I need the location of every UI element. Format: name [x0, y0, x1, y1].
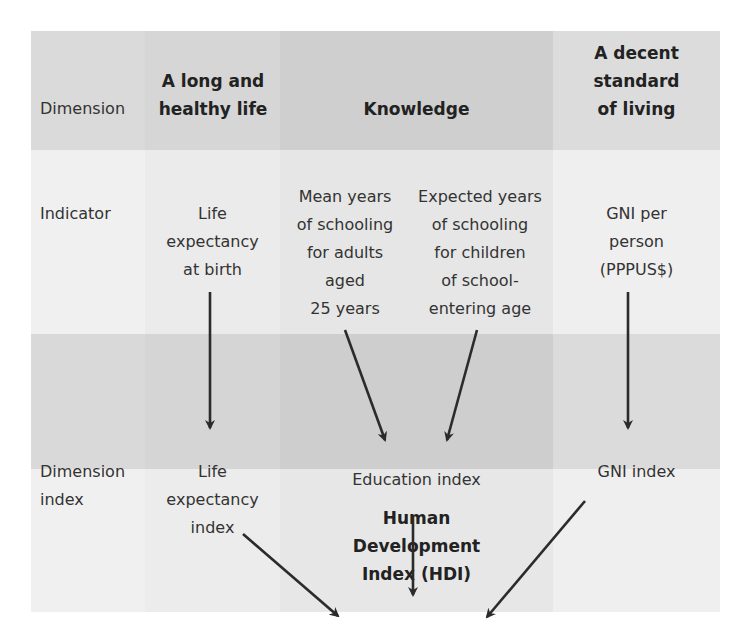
arrow-gni-index-to-hdi	[487, 501, 585, 617]
arrow-mean-schooling-to-education	[345, 330, 385, 440]
arrow-expected-schooling-to-education	[447, 330, 477, 440]
arrows-layer	[0, 0, 736, 627]
arrow-life-index-to-hdi	[243, 534, 338, 616]
